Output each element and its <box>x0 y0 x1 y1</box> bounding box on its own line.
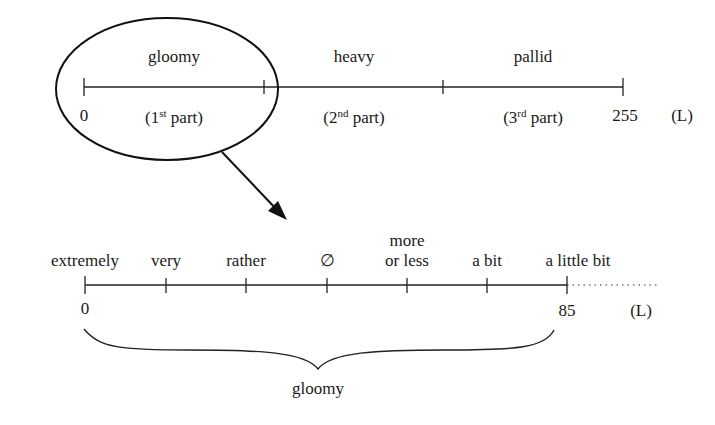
part-label-3: (3rd part) <box>503 109 563 126</box>
brace-label-gloomy: gloomy <box>292 380 344 397</box>
hedge-more-or-less-line1: more <box>390 232 425 249</box>
hedge-extremely: extremely <box>51 252 119 269</box>
part-num: 3 <box>509 108 518 127</box>
hedge-very: very <box>151 252 181 269</box>
part-word: part) <box>531 108 563 127</box>
hedge-a-bit: a bit <box>472 252 502 269</box>
top-unit-label: (L) <box>671 107 693 124</box>
bottom-unit-label: (L) <box>630 302 652 319</box>
hedge-more-or-less-line2: or less <box>385 252 429 269</box>
bottom-start-value: 0 <box>81 300 90 317</box>
part-num: 1 <box>151 108 160 127</box>
part-word: part) <box>171 108 203 127</box>
segment-label-heavy: heavy <box>334 48 375 65</box>
part-num: 2 <box>329 108 338 127</box>
top-end-value: 255 <box>612 107 638 124</box>
bottom-end-value: 85 <box>559 302 576 319</box>
segment-label-gloomy: gloomy <box>148 48 200 65</box>
part-word: part) <box>353 108 385 127</box>
hedge-rather: rather <box>226 252 266 269</box>
part-ordinal: nd <box>337 107 348 119</box>
part-ordinal: st <box>159 107 166 119</box>
part-label-1: (1st part) <box>145 109 203 126</box>
top-start-value: 0 <box>80 107 89 124</box>
highlight-ellipse <box>56 18 278 160</box>
segment-label-pallid: pallid <box>514 48 553 65</box>
curly-brace <box>84 329 554 369</box>
zoom-arrow-shaft <box>222 152 279 212</box>
part-ordinal: rd <box>517 107 526 119</box>
hedge-a-little-bit: a little bit <box>545 252 610 269</box>
hedge-empty-set: ∅ <box>320 252 335 269</box>
part-label-2: (2nd part) <box>323 109 385 126</box>
